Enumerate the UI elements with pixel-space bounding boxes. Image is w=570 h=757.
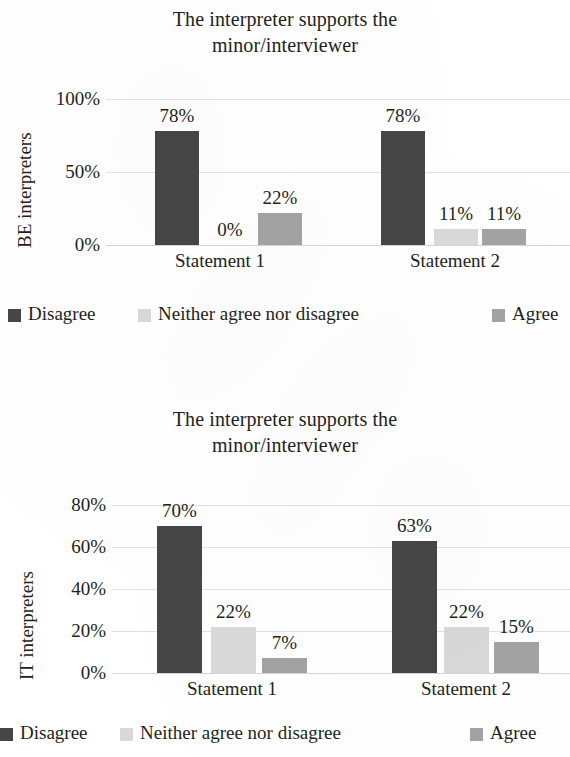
bar (381, 131, 425, 245)
bar-value-label: 15% (499, 616, 534, 638)
bar-value-label: 11% (487, 203, 521, 225)
legend-item[interactable]: Disagree (8, 303, 96, 325)
bar (258, 213, 302, 245)
y-axis-tick-label: 50% (28, 161, 100, 183)
legend-swatch-icon (0, 728, 13, 741)
legend-label: Neither agree nor disagree (140, 722, 341, 744)
bar (211, 627, 256, 673)
chart-legend: DisagreeNeither agree nor disagreeAgree (0, 722, 570, 748)
legend-item[interactable]: Agree (470, 722, 536, 744)
legend-swatch-icon (470, 728, 483, 741)
bar-value-label: 22% (263, 187, 298, 209)
bar-value-label: 11% (439, 203, 473, 225)
bar-value-label: 0% (217, 219, 242, 241)
chart-title-line-1: The interpreter supports the (40, 406, 530, 432)
chart-title-line-1: The interpreter supports the (40, 6, 530, 32)
legend-label: Disagree (20, 722, 88, 744)
x-axis-category-label: Statement 1 (175, 250, 265, 272)
bar (155, 131, 199, 245)
bar-value-label: 22% (216, 601, 251, 623)
y-axis-tick-label: 20% (34, 620, 106, 642)
legend-swatch-icon (8, 309, 21, 322)
chart-title: The interpreter supports theminor/interv… (40, 406, 530, 459)
x-axis-category-label: Statement 1 (187, 678, 277, 700)
chart-it-interpreters: The interpreter supports theminor/interv… (0, 400, 570, 757)
chart-legend: DisagreeNeither agree nor disagreeAgree (0, 303, 570, 329)
gridline (106, 99, 570, 100)
bar-value-label: 78% (386, 105, 421, 127)
legend-item[interactable]: Agree (492, 303, 558, 325)
legend-label: Agree (512, 303, 558, 325)
legend-item[interactable]: Neither agree nor disagree (138, 303, 359, 325)
bar-value-label: 7% (272, 632, 297, 654)
legend-label: Neither agree nor disagree (158, 303, 359, 325)
y-axis-tick-label: 0% (28, 234, 100, 256)
x-axis-category-label: Statement 2 (410, 250, 500, 272)
bar (392, 541, 437, 673)
bar (262, 658, 307, 673)
y-axis-tick-label: 60% (34, 536, 106, 558)
y-axis-tick-label: 40% (34, 578, 106, 600)
legend-item[interactable]: Disagree (0, 722, 88, 744)
chart-title-line-2: minor/interviewer (40, 32, 530, 58)
bar-value-label: 22% (449, 601, 484, 623)
gridline (106, 245, 570, 246)
chart-title: The interpreter supports theminor/interv… (40, 6, 530, 59)
x-axis-category-label: Statement 2 (421, 678, 511, 700)
bar (157, 526, 202, 673)
legend-label: Agree (490, 722, 536, 744)
legend-swatch-icon (492, 309, 505, 322)
bar (494, 642, 539, 674)
bar-value-label: 70% (162, 500, 197, 522)
y-axis-tick-label: 100% (28, 88, 100, 110)
y-axis-tick-label: 0% (34, 662, 106, 684)
legend-swatch-icon (138, 309, 151, 322)
y-axis-title: BE interpreters (14, 132, 36, 248)
gridline (112, 673, 570, 674)
legend-item[interactable]: Neither agree nor disagree (120, 722, 341, 744)
legend-swatch-icon (120, 728, 133, 741)
chart-be-interpreters: The interpreter supports theminor/interv… (0, 0, 570, 340)
chart-title-line-2: minor/interviewer (40, 432, 530, 458)
y-axis-tick-label: 80% (34, 494, 106, 516)
legend-label: Disagree (28, 303, 96, 325)
bar (434, 229, 478, 245)
bar (444, 627, 489, 673)
bar-value-label: 78% (160, 105, 195, 127)
bar-value-label: 63% (397, 515, 432, 537)
bar (482, 229, 526, 245)
